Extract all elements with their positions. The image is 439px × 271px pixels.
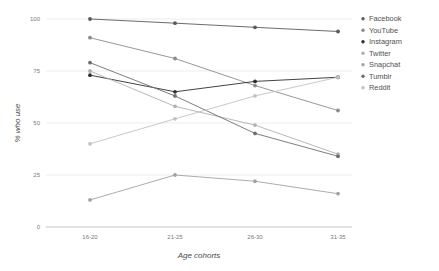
series-line [90, 175, 338, 200]
y-tick-label: 50 [33, 120, 40, 126]
legend-label: Facebook [369, 14, 402, 23]
series-youtube [88, 36, 340, 113]
data-point [88, 69, 92, 73]
legend-label: Tumblr [369, 72, 392, 81]
gridlines [46, 19, 352, 227]
legend-label: Instagram [369, 37, 402, 46]
legend-marker-icon [361, 63, 364, 66]
series-snapchat [88, 173, 340, 202]
data-point [173, 117, 177, 121]
data-point [336, 109, 340, 113]
data-point [173, 90, 177, 94]
series-line [90, 63, 338, 157]
legend-marker-icon [361, 29, 364, 32]
series-layer [88, 17, 340, 202]
legend-item-youtube[interactable]: YouTube [361, 26, 398, 35]
data-point [173, 173, 177, 177]
x-axis-tick-labels: 16-2021-2526-3031-35 [82, 234, 346, 240]
legend-marker-icon [361, 75, 364, 78]
data-point [336, 30, 340, 34]
data-point [253, 132, 257, 136]
data-point [173, 94, 177, 98]
data-point [88, 17, 92, 21]
y-tick-label: 25 [33, 172, 40, 178]
chart-canvas: 0255075100 16-2021-2526-3031-35 Facebook… [0, 0, 439, 271]
legend-label: Reddit [369, 83, 390, 92]
legend-item-facebook[interactable]: Facebook [361, 14, 401, 23]
x-tick-label: 16-20 [82, 234, 98, 240]
data-point [336, 154, 340, 158]
data-point [88, 61, 92, 65]
series-facebook [88, 17, 340, 33]
x-tick-label: 21-25 [167, 234, 183, 240]
data-point [253, 94, 257, 98]
series-line [90, 19, 338, 31]
data-point [336, 75, 340, 79]
y-axis-title: % who use [13, 103, 22, 143]
legend-marker-icon [361, 86, 364, 89]
data-point [173, 104, 177, 108]
legend-marker-icon [361, 40, 364, 43]
data-point [253, 123, 257, 127]
legend-label: Twitter [369, 49, 391, 58]
data-point [173, 57, 177, 61]
data-point [173, 21, 177, 25]
series-line [90, 71, 338, 154]
data-point [253, 80, 257, 84]
series-tumblr [88, 61, 340, 158]
chart-legend: FacebookYouTubeInstagramTwitterSnapchatT… [361, 14, 402, 92]
y-tick-label: 0 [37, 224, 41, 230]
legend-item-twitter[interactable]: Twitter [361, 49, 391, 58]
series-line [90, 38, 338, 111]
legend-marker-icon [361, 52, 364, 55]
data-point [88, 36, 92, 40]
x-axis-title: Age cohorts [177, 251, 221, 260]
y-tick-label: 100 [30, 16, 41, 22]
legend-item-reddit[interactable]: Reddit [361, 83, 390, 92]
data-point [88, 73, 92, 77]
x-tick-label: 31-35 [330, 234, 346, 240]
series-line [90, 77, 338, 144]
data-point [336, 192, 340, 196]
x-tick-label: 26-30 [247, 234, 263, 240]
legend-label: YouTube [369, 26, 398, 35]
line-chart: 0255075100 16-2021-2526-3031-35 Facebook… [0, 0, 439, 271]
data-point [88, 198, 92, 202]
legend-item-tumblr[interactable]: Tumblr [361, 72, 392, 81]
data-point [253, 84, 257, 88]
y-tick-label: 75 [33, 68, 40, 74]
data-point [253, 25, 257, 29]
legend-marker-icon [361, 17, 364, 20]
legend-item-instagram[interactable]: Instagram [361, 37, 402, 46]
legend-label: Snapchat [369, 60, 400, 69]
data-point [88, 142, 92, 146]
y-axis-tick-labels: 0255075100 [30, 16, 41, 230]
data-point [253, 179, 257, 183]
legend-item-snapchat[interactable]: Snapchat [361, 60, 400, 69]
